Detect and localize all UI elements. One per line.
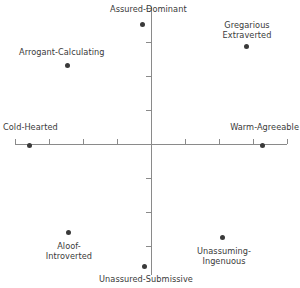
data-point (142, 264, 147, 269)
data-point-label: GregariousExtraverted (211, 20, 283, 40)
data-point-label-line: Warm-Agreeable (223, 122, 299, 132)
y-axis-tick (146, 110, 151, 111)
scatter-plot-figure: Assured-DominantGregariousExtravertedArr… (0, 0, 300, 288)
data-point (66, 230, 71, 235)
data-point-label: Unassuming-Ingenuous (182, 246, 266, 266)
x-axis-tick (253, 139, 254, 144)
data-point-label-line: Introverted (34, 251, 104, 261)
data-point-label: Assured-Dominant (110, 4, 194, 14)
data-point-label: Cold-Hearted (3, 122, 69, 132)
data-point-label-line: Unassured-Submissive (63, 274, 229, 284)
x-axis-tick (49, 139, 50, 144)
y-axis-tick (146, 178, 151, 179)
x-axis-tick (83, 139, 84, 144)
data-point-label-line: Unassuming- (182, 246, 266, 256)
data-point-label-line: Ingenuous (182, 256, 266, 266)
data-point-label: Arrogant-Calculating (19, 47, 117, 57)
data-point-label-line: Gregarious (211, 20, 283, 30)
data-point-label-line: Aloof- (34, 241, 104, 251)
y-axis-tick (146, 246, 151, 247)
data-point-label: Unassured-Submissive (63, 274, 229, 284)
x-axis-tick (117, 139, 118, 144)
x-axis-tick (287, 139, 288, 144)
data-point (260, 143, 265, 148)
data-point-label-line: Extraverted (211, 30, 283, 40)
data-point-label: Warm-Agreeable (223, 122, 299, 132)
y-axis-tick (146, 212, 151, 213)
data-point-label-line: Cold-Hearted (3, 122, 69, 132)
data-point-label-line: Arrogant-Calculating (19, 47, 117, 57)
data-point (65, 63, 70, 68)
x-axis-tick (219, 139, 220, 144)
y-axis-tick (146, 42, 151, 43)
x-axis-tick (15, 139, 16, 144)
y-axis-tick (146, 76, 151, 77)
data-point-label-line: Assured-Dominant (110, 4, 194, 14)
x-axis-tick (185, 139, 186, 144)
data-point-label: Aloof-Introverted (34, 241, 104, 261)
data-point (27, 143, 32, 148)
data-point (244, 44, 249, 49)
y-axis-tick (146, 144, 151, 145)
x-axis-tick (151, 139, 152, 144)
data-point (140, 22, 145, 27)
data-point (220, 235, 225, 240)
